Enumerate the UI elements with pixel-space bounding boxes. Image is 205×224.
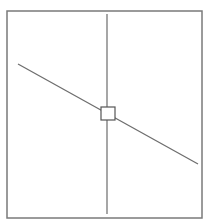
diagram-canvas bbox=[0, 0, 205, 224]
center-square-marker bbox=[101, 107, 115, 120]
